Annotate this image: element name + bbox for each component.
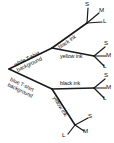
leaf-label-g4-s: S	[88, 113, 92, 119]
branch-label-white-yellow-ink: yellow ink	[60, 53, 82, 59]
leaf-label-g4-m: M	[83, 128, 88, 134]
twig-g1-l	[87, 22, 102, 23]
twig-g1-s	[87, 8, 88, 23]
leaf-label-g3-l: L	[103, 95, 106, 101]
leaf-label-g1-l: L	[103, 18, 106, 24]
branch-label-blue-black-ink: black ink	[60, 80, 80, 86]
leaf-label-g2-m: M	[106, 52, 111, 58]
twig-g1-m	[87, 13, 99, 23]
leaf-label-g3-s: S	[104, 72, 108, 78]
twig-g2-s	[94, 47, 105, 56]
leaf-label-g1-m: M	[99, 7, 104, 13]
leaf-label-g4-l: L	[62, 132, 65, 138]
branch-blue-to-black-ink	[52, 88, 94, 89]
leaf-label-g3-m: M	[106, 84, 111, 90]
twig-g4-l	[68, 125, 75, 134]
leaf-label-g2-s: S	[104, 40, 108, 46]
leaf-label-g2-l: L	[103, 63, 106, 69]
twig-g4-s	[75, 118, 88, 125]
twig-g3-s	[94, 79, 105, 88]
leaf-label-g1-s: S	[85, 1, 89, 7]
tree-diagram-canvas: white T-shirt background blue T-shirt ba…	[0, 0, 114, 143]
